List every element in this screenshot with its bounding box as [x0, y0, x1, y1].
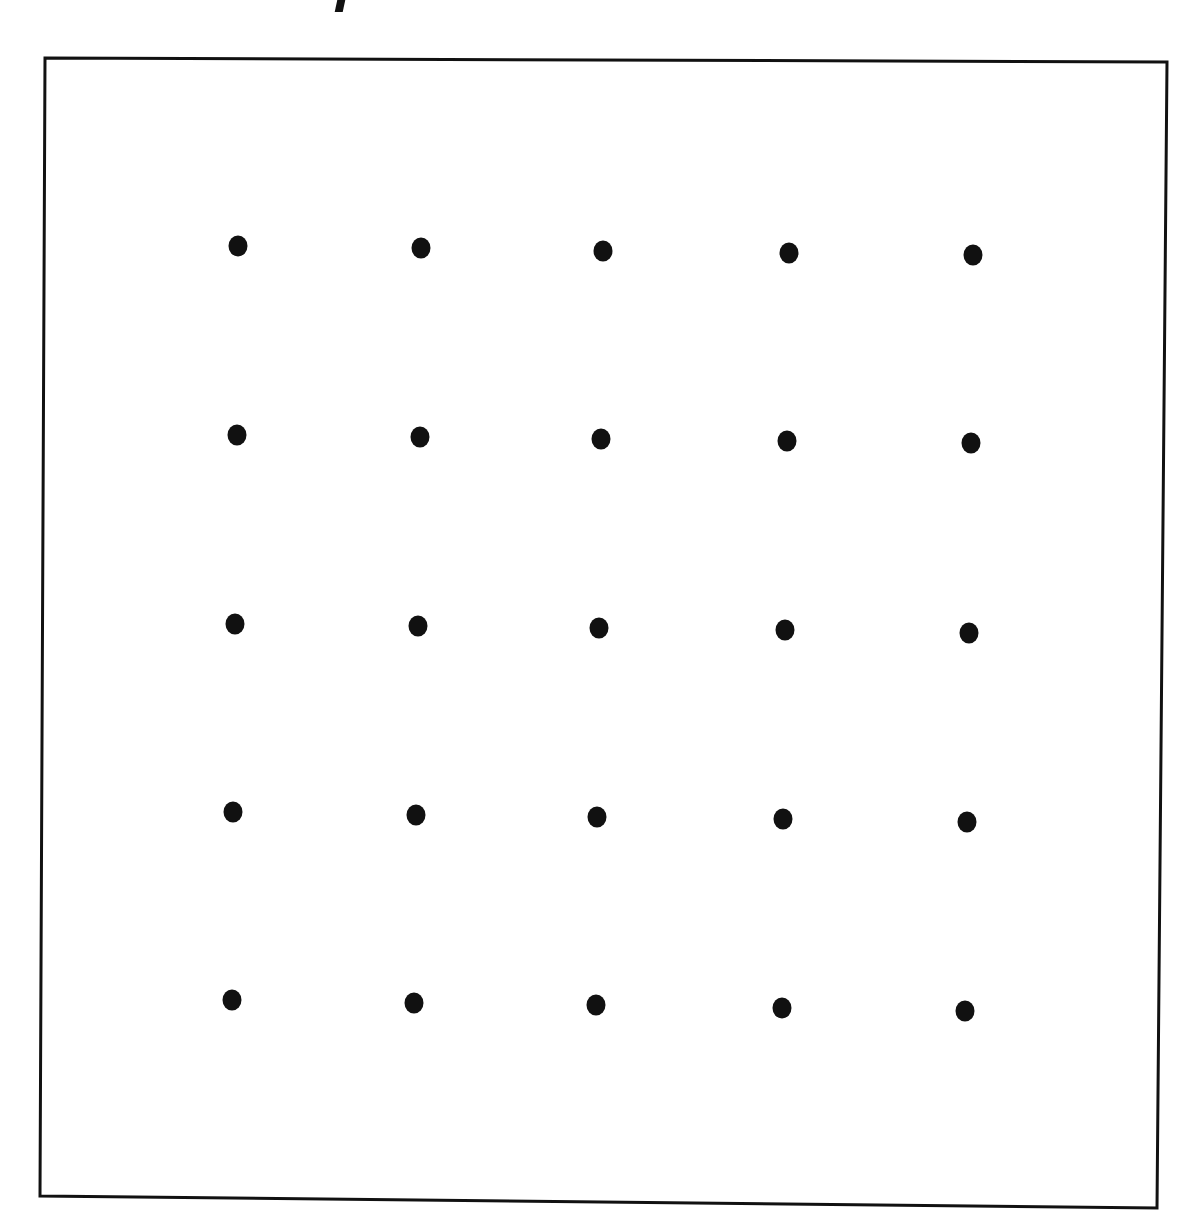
grid-dot-r5-c1 [223, 990, 242, 1011]
grid-dot-r1-c4 [780, 243, 799, 264]
grid-dot-r3-c1 [226, 614, 245, 635]
grid-dot-r4-c5 [958, 812, 977, 833]
dot-grid [223, 236, 983, 1022]
grid-dot-r4-c2 [407, 805, 426, 826]
grid-dot-r5-c3 [587, 995, 606, 1016]
grid-dot-r1-c1 [229, 236, 248, 257]
grid-dot-r5-c4 [773, 998, 792, 1019]
dot-grid-diagram [0, 0, 1200, 1231]
grid-dot-r2-c1 [228, 425, 247, 446]
grid-dot-r2-c5 [962, 433, 981, 454]
grid-dot-r3-c3 [590, 618, 609, 639]
grid-dot-r1-c2 [412, 238, 431, 259]
grid-dot-r3-c2 [409, 616, 428, 637]
grid-dot-r3-c5 [960, 623, 979, 644]
grid-dot-r2-c2 [411, 427, 430, 448]
grid-dot-r2-c4 [778, 431, 797, 452]
grid-dot-r5-c2 [405, 993, 424, 1014]
grid-dot-r2-c3 [592, 429, 611, 450]
grid-dot-r1-c5 [964, 245, 983, 266]
grid-dot-r1-c3 [594, 241, 613, 262]
grid-dot-r4-c3 [588, 807, 607, 828]
grid-dot-r4-c1 [224, 802, 243, 823]
grid-dot-r5-c5 [956, 1001, 975, 1022]
grid-dot-r4-c4 [774, 809, 793, 830]
grid-dot-r3-c4 [776, 620, 795, 641]
